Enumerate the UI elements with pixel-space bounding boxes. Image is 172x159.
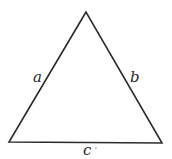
- side-label-c: c: [83, 141, 92, 159]
- triangle-diagram: a b c: [0, 0, 172, 159]
- side-label-a: a: [33, 68, 42, 86]
- side-label-b: b: [130, 68, 140, 86]
- stray-dot: [95, 147, 96, 148]
